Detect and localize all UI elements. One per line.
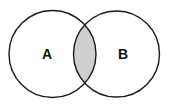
venn-diagram: A B <box>0 0 169 108</box>
set-b-label: B <box>118 46 128 62</box>
set-a-label: A <box>42 46 52 62</box>
